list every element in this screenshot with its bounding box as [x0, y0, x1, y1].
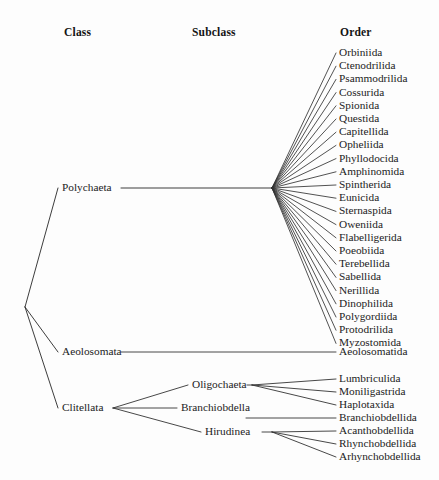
- order-label-arhynchobdellida: Arhynchobdellida: [339, 451, 421, 462]
- order-label-spionida: Spionida: [339, 100, 379, 111]
- branch-polychaeta-questida: [272, 119, 336, 188]
- order-label-acanthobdellida: Acanthobdellida: [339, 425, 414, 436]
- order-label-aeolosomatida: Aeolosomatida: [339, 346, 407, 357]
- branch-polychaeta-orbiniida: [272, 53, 336, 188]
- order-label-capitellida: Capitellida: [339, 126, 389, 137]
- branch-polychaeta-flabelligerida: [272, 188, 336, 238]
- order-label-phyllodocida: Phyllodocida: [339, 153, 399, 164]
- order-label-oweniida: Oweniida: [339, 219, 383, 230]
- order-label-spintherida: Spintherida: [339, 179, 391, 190]
- order-label-haplotaxida: Haplotaxida: [339, 399, 394, 410]
- branch-polychaeta-spionida: [272, 106, 336, 188]
- subclass-label-oligochaeta: Oligochaeta: [192, 379, 247, 390]
- branch-root-clitellata: [25, 307, 58, 408]
- branch-polychaeta-opheliida: [272, 145, 336, 188]
- order-label-polygordiida: Polygordiida: [339, 311, 397, 322]
- subclass-label-branchiobdella: Branchiobdella: [181, 402, 250, 413]
- branch-hirudinea-acanthobdellida: [272, 431, 336, 432]
- branch-oligochaeta-lumbriculida: [252, 379, 336, 385]
- branch-oligochaeta-moniligastrida: [252, 385, 336, 392]
- branch-polychaeta-protodrilida: [272, 188, 336, 330]
- order-label-ctenodrilida: Ctenodrilida: [339, 60, 395, 71]
- order-label-terebellida: Terebellida: [339, 258, 390, 269]
- column-header-order: Order: [340, 26, 372, 38]
- branch-polychaeta-ctenodrilida: [272, 66, 336, 188]
- class-label-clitellata: Clitellata: [62, 402, 103, 413]
- order-label-dinophilida: Dinophilida: [339, 298, 393, 309]
- order-label-eunicida: Eunicida: [339, 192, 379, 203]
- column-header-subclass: Subclass: [192, 26, 236, 38]
- class-label-polychaeta: Polychaeta: [62, 182, 112, 193]
- order-label-questida: Questida: [339, 113, 379, 124]
- order-label-psammodrilida: Psammodrilida: [339, 73, 407, 84]
- branch-root-polychaeta: [25, 188, 58, 307]
- order-label-flabelligerida: Flabelligerida: [339, 232, 402, 243]
- order-label-branchiobdellida: Branchiobdellida: [339, 412, 417, 423]
- subclass-label-hirudinea: Hirudinea: [205, 426, 250, 437]
- branch-polychaeta-myzostomida: [272, 188, 336, 343]
- order-label-orbiniida: Orbiniida: [339, 47, 382, 58]
- order-label-moniligastrida: Moniligastrida: [339, 386, 406, 397]
- branch-polychaeta-dinophilida: [272, 188, 336, 304]
- order-label-lumbriculida: Lumbriculida: [339, 373, 401, 384]
- order-label-amphinomida: Amphinomida: [339, 166, 404, 177]
- order-label-sabellida: Sabellida: [339, 271, 381, 282]
- order-label-poeobiida: Poeobiida: [339, 245, 384, 256]
- order-label-rhynchobdellida: Rhynchobdellida: [339, 438, 416, 449]
- cladogram-figure: Class Subclass Order Polychaeta Aeolosom…: [0, 0, 439, 480]
- branch-polychaeta-nerillida: [272, 188, 336, 291]
- branch-polychaeta-psammodrilida: [272, 79, 336, 188]
- branch-root-aeolosomata: [25, 307, 58, 352]
- order-label-sternaspida: Sternaspida: [339, 205, 392, 216]
- order-label-nerillida: Nerillida: [339, 285, 379, 296]
- branch-polychaeta-sabellida: [272, 188, 336, 277]
- branch-hirudinea-rhynchobdellida: [272, 432, 336, 444]
- order-label-opheliida: Opheliida: [339, 139, 384, 150]
- order-label-protodrilida: Protodrilida: [339, 324, 393, 335]
- class-label-aeolosomata: Aeolosomata: [62, 346, 122, 357]
- order-label-cossurida: Cossurida: [339, 87, 384, 98]
- column-header-class: Class: [64, 26, 91, 38]
- branch-oligochaeta-haplotaxida: [252, 385, 336, 405]
- branch-hirudinea-arhynchobdellida: [272, 432, 336, 457]
- branch-clitellata-oligochaeta: [113, 385, 188, 408]
